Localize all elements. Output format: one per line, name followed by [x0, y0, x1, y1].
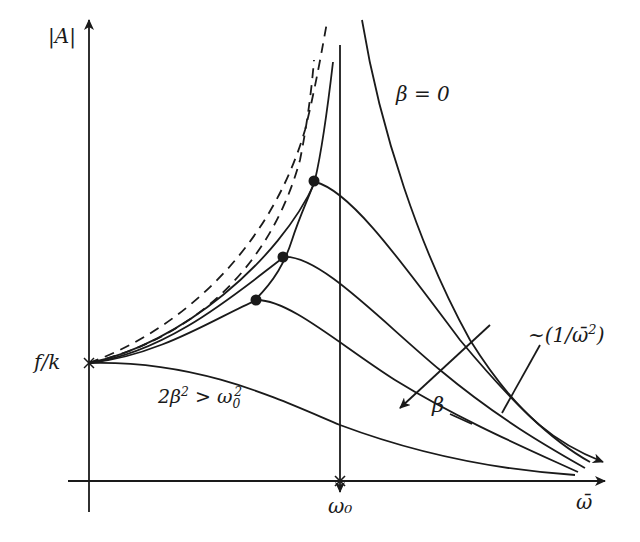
beta-arrow [400, 325, 490, 408]
omega0-label: ω₀ [328, 494, 352, 518]
asymptote-pointer [502, 345, 540, 413]
overdamped-label: 2β2 > ω02 [158, 385, 242, 411]
peak-dot-1 [309, 176, 320, 187]
resonance-diagram: |A| β = 0 f/k 2β2 > ω02 ~(1/ω̄2) β ω₀ ω̄ [0, 0, 640, 542]
asymptote-label: ~(1/ω̄2) [528, 322, 604, 347]
curve-overdamped [89, 363, 575, 475]
curve-peak-locus [255, 62, 333, 300]
static-amplitude-label: f/k [34, 350, 60, 374]
beta-leader [450, 414, 472, 424]
undamped-label: β = 0 [396, 82, 450, 106]
diagram-canvas [0, 0, 640, 542]
peak-dot-2 [278, 252, 289, 263]
y-axis-label: |A| [48, 24, 76, 48]
peak-dot-3 [251, 295, 262, 306]
x-axis-label: ω̄ [576, 490, 592, 514]
beta-arrow-label: β [432, 393, 444, 417]
curve-damped-2 [89, 257, 585, 468]
